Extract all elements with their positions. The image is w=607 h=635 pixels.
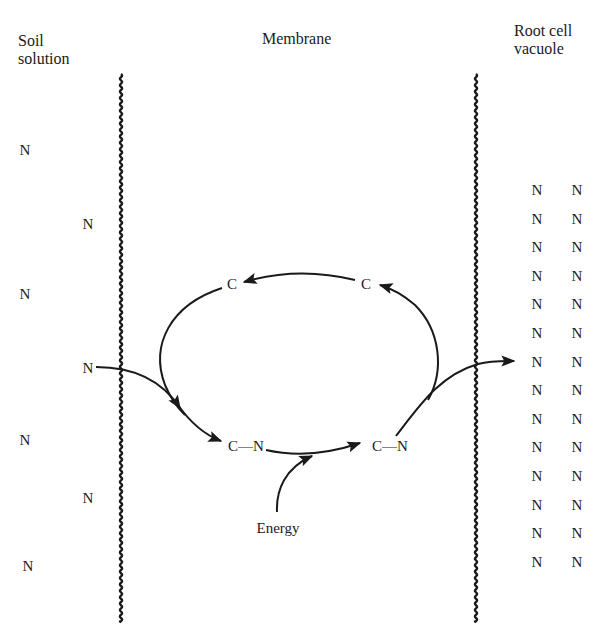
energy-label: Energy <box>256 520 299 536</box>
soil-nitrogen-atom: N <box>20 432 31 448</box>
arrow-energy-input <box>277 456 312 512</box>
vacuole-nitrogen-atom: N <box>532 468 543 484</box>
header-soil-solution-line1: Soil <box>18 32 70 50</box>
carrier-top-left: C <box>227 276 237 292</box>
vacuole-nitrogen-atom: N <box>532 554 543 570</box>
soil-nitrogen-atom: N <box>20 286 31 302</box>
vacuole-nitrogen-atom: N <box>572 525 583 541</box>
vacuole-nitrogen-atom: N <box>572 182 583 198</box>
vacuole-nitrogen-atom: N <box>572 497 583 513</box>
vacuole-nitrogen-atom: N <box>532 211 543 227</box>
vacuole-nitrogen-atom: N <box>532 182 543 198</box>
diagram-canvas <box>0 0 607 635</box>
vacuole-nitrogen-atom: N <box>572 382 583 398</box>
soil-nitrogen-atom: N <box>23 558 34 574</box>
vacuole-nitrogen-atom: N <box>572 239 583 255</box>
header-soil-solution-line2: solution <box>18 50 70 68</box>
vacuole-nitrogen-atom: N <box>572 554 583 570</box>
vacuole-nitrogen-atom: N <box>532 296 543 312</box>
vacuole-nitrogen-atom: N <box>532 439 543 455</box>
soil-nitrogen-atom: N <box>20 142 31 158</box>
vacuole-nitrogen-atom: N <box>532 239 543 255</box>
vacuole-nitrogen-atom: N <box>572 468 583 484</box>
vacuole-nitrogen-atom: N <box>532 354 543 370</box>
arrow-to-complex-left <box>178 405 221 441</box>
vacuole-nitrogen-atom: N <box>532 411 543 427</box>
vacuole-nitrogen-atom: N <box>572 268 583 284</box>
header-membrane: Membrane <box>262 30 331 48</box>
arrow-carrier-return <box>244 273 355 282</box>
arrow-nitrogen-release <box>396 361 514 436</box>
arrow-complex-transfer <box>266 443 360 454</box>
arrow-nitrogen-uptake <box>96 367 180 408</box>
vacuole-nitrogen-atom: N <box>532 325 543 341</box>
vacuole-nitrogen-atom: N <box>532 382 543 398</box>
vacuole-nitrogen-atom: N <box>532 497 543 513</box>
complex-right: C—N <box>372 438 408 454</box>
carrier-cycle-loop <box>96 273 514 512</box>
membrane-boundary-left <box>120 74 122 622</box>
complex-left: C—N <box>228 438 264 454</box>
vacuole-nitrogen-atom: N <box>572 354 583 370</box>
header-root-cell-vacuole: Root cell vacuole <box>514 22 572 58</box>
vacuole-nitrogen-atom: N <box>532 268 543 284</box>
header-soil-solution: Soil solution <box>18 32 70 68</box>
vacuole-nitrogen-atom: N <box>572 211 583 227</box>
carrier-top-right: C <box>361 276 371 292</box>
soil-nitrogen-atom: N <box>83 216 94 232</box>
arrow-loop-right-up <box>380 285 438 400</box>
vacuole-nitrogen-atom: N <box>572 296 583 312</box>
vacuole-nitrogen-atom: N <box>572 411 583 427</box>
soil-nitrogen-atom: N <box>83 360 94 376</box>
membrane-boundary-right <box>475 74 477 622</box>
vacuole-nitrogen-atom: N <box>532 525 543 541</box>
header-vacuole-line1: Root cell <box>514 22 572 40</box>
vacuole-nitrogen-atom: N <box>572 439 583 455</box>
soil-nitrogen-atom: N <box>83 490 94 506</box>
header-vacuole-line2: vacuole <box>514 40 572 58</box>
vacuole-nitrogen-atom: N <box>572 325 583 341</box>
